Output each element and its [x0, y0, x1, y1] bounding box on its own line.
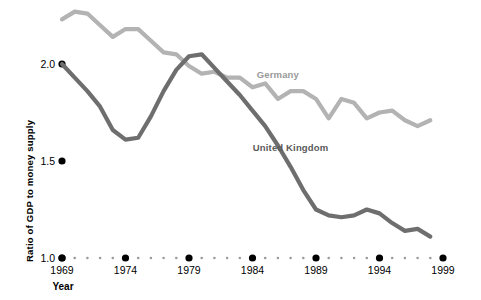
series-annotation-united-kingdom: United Kingdom	[253, 142, 328, 153]
y-tick-label: 1.0	[40, 252, 55, 264]
x-axis-tick-labels: 1969197419791984198919941999	[50, 264, 455, 276]
x-minor-tick-dot	[226, 257, 229, 260]
x-minor-tick-dot	[200, 257, 203, 260]
x-minor-tick-dot	[86, 257, 89, 260]
x-tick-dot	[312, 254, 319, 261]
x-tick-dot	[122, 254, 129, 261]
x-minor-tick-dot	[416, 257, 419, 260]
series-annotation-germany: Germany	[257, 69, 300, 80]
x-tick-label: 1989	[304, 264, 328, 276]
x-minor-tick-dot	[366, 257, 369, 260]
chart-container: Ratio of GDP to money supply 2.01.51.0 1…	[0, 0, 481, 300]
x-tick-label: 1994	[368, 264, 392, 276]
y-tick-dot	[58, 157, 65, 164]
x-minor-tick-dot	[99, 257, 102, 260]
y-axis-title: Ratio of GDP to money supply	[24, 119, 35, 262]
x-tick-dot	[185, 254, 192, 261]
series-line-germany	[62, 12, 430, 126]
x-axis-tick-markers	[58, 254, 446, 261]
x-minor-tick-dot	[277, 257, 280, 260]
x-tick-label: 1969	[50, 264, 74, 276]
x-minor-tick-dot	[73, 257, 76, 260]
line-chart: Ratio of GDP to money supply 2.01.51.0 1…	[0, 0, 481, 300]
y-tick-label: 2.0	[40, 58, 55, 70]
x-minor-tick-dot	[302, 257, 305, 260]
series-lines-group	[62, 12, 430, 237]
x-minor-tick-dot	[213, 257, 216, 260]
x-minor-tick-dot	[289, 257, 292, 260]
series-annotations-group: GermanyUnited Kingdom	[253, 69, 328, 154]
x-minor-tick-dot	[429, 257, 432, 260]
x-tick-dot	[249, 254, 256, 261]
x-tick-dot	[439, 254, 446, 261]
x-axis-title: Year	[52, 281, 73, 292]
x-minor-tick-dot	[175, 257, 178, 260]
x-minor-tick-dot	[353, 257, 356, 260]
x-minor-tick-dot	[327, 257, 330, 260]
y-tick-label: 1.5	[40, 155, 55, 167]
x-minor-tick-dot	[150, 257, 153, 260]
y-axis-tick-labels: 2.01.51.0	[40, 58, 55, 264]
x-tick-label: 1974	[114, 264, 138, 276]
x-minor-tick-dot	[112, 257, 115, 260]
x-tick-dot	[376, 254, 383, 261]
x-minor-tick-dot	[162, 257, 165, 260]
x-minor-tick-dot	[137, 257, 140, 260]
x-tick-label: 1979	[177, 264, 201, 276]
x-minor-tick-dot	[340, 257, 343, 260]
x-minor-tick-dot	[264, 257, 267, 260]
x-minor-tick-dot	[404, 257, 407, 260]
x-tick-label: 1984	[241, 264, 265, 276]
x-minor-tick-dot	[239, 257, 242, 260]
y-axis-tick-markers	[58, 60, 65, 261]
x-tick-label: 1999	[431, 264, 455, 276]
x-minor-tick-dot	[391, 257, 394, 260]
x-tick-dot	[58, 254, 65, 261]
